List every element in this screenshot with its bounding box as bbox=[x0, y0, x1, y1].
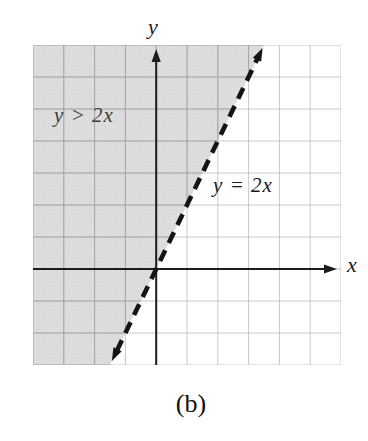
y-axis-label: y bbox=[148, 14, 158, 40]
figure-caption: (b) bbox=[176, 389, 206, 419]
x-axis-label: x bbox=[347, 252, 357, 278]
graph-canvas bbox=[33, 45, 341, 365]
inequality-region-label: y > 2x bbox=[54, 103, 114, 128]
plot-area bbox=[33, 45, 341, 365]
figure-page: y x y > 2x y = 2x (b) bbox=[0, 0, 368, 441]
boundary-line-label: y = 2x bbox=[213, 173, 273, 198]
